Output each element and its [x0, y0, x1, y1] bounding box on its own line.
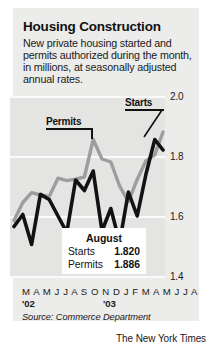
x-axis-year-2003: '03 — [103, 298, 116, 309]
x-axis-year-2002: '02 — [22, 298, 35, 309]
page-title: Housing Construction — [23, 19, 161, 34]
chart-figure: Housing Construction New private housing… — [0, 0, 212, 352]
august-data-box: August Starts 1.820 Permits 1.886 — [62, 228, 146, 274]
data-row-starts-value: 1.820 — [114, 246, 140, 257]
data-box-title: August — [62, 232, 146, 244]
y-tick-1-6: 1.6 — [170, 211, 183, 222]
x-axis-months: M A M J J A S O N D J F M A M J J A — [22, 286, 198, 297]
publisher-credit: The New York Times — [116, 333, 206, 344]
series-label-permits: Permits — [46, 116, 92, 130]
y-tick-2-0: 2.0 — [170, 91, 183, 102]
y-tick-1-8: 1.8 — [170, 151, 183, 162]
y-tick-1-4: 1.4 — [170, 271, 183, 282]
leader-line-permits — [91, 128, 93, 139]
chart-subtitle: New private housing started and permits … — [23, 38, 193, 86]
series-label-starts-text: Starts — [125, 97, 152, 108]
data-row-starts-label: Starts — [68, 246, 95, 257]
source-note: Source: Commerce Department — [22, 312, 151, 322]
data-row-permits-label: Permits — [68, 259, 103, 270]
data-row-permits-value: 1.886 — [114, 259, 140, 270]
series-label-permits-text: Permits — [46, 116, 81, 127]
series-label-permits-rule — [46, 128, 92, 130]
leader-line-starts — [140, 109, 164, 139]
